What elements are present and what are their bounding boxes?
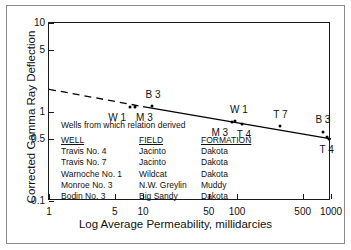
data-point-label: T 4 (320, 145, 334, 155)
x-tick-label-1000: 1000 (320, 207, 342, 217)
data-point (328, 137, 331, 140)
y-tick-0.5 (49, 139, 54, 140)
data-point (151, 104, 154, 107)
plot-area: 1510501005001000 10510.50.1 W 1M 3B 3W 1… (48, 22, 330, 200)
legend-note: Wells from which relation derived (61, 120, 186, 130)
legend-cell-formation: Muddy (201, 180, 251, 191)
y-tick-label-0.5: 0.5 (19, 134, 45, 144)
legend-header-row: WELL FIELD FORMATION (61, 135, 251, 146)
data-point (240, 122, 243, 125)
x-tick-label-5: 5 (112, 207, 118, 217)
legend-header-formation: FORMATION (201, 135, 251, 146)
y-tick-label-5: 5 (19, 45, 45, 55)
legend-row: Bodin No. 3Big SandyDakota (61, 191, 251, 202)
legend-cell-formation: Dakota (201, 191, 251, 202)
x-tick-1000 (331, 194, 332, 199)
legend-cell-field: Jacinto (139, 157, 201, 168)
x-tick-label-50: 50 (203, 207, 214, 217)
legend-body: Travis No. 4JacintoDakotaTravis No. 7Jac… (61, 146, 251, 202)
y-tick-0.1 (49, 201, 54, 202)
data-point (279, 124, 282, 127)
legend-header-field: FIELD (139, 135, 201, 146)
data-point (321, 130, 324, 133)
legend-cell-formation: Dakota (201, 146, 251, 157)
data-point (129, 106, 132, 109)
y-tick-1 (49, 112, 54, 113)
legend-cell-well: Bodin No. 3 (61, 191, 139, 202)
figure-container: Corrected Gamma Ray Deflection Log Avera… (0, 0, 351, 250)
x-tick-label-10: 10 (137, 207, 148, 217)
y-tick-10 (49, 23, 54, 24)
x-tick-500 (303, 194, 304, 199)
legend-cell-well: Warnoche No. 1 (61, 169, 139, 180)
x-axis-title: Log Average Permeability, millidarcies (0, 218, 351, 230)
data-point (134, 106, 137, 109)
wells-legend-table: WELL FIELD FORMATION Travis No. 4Jacinto… (61, 135, 251, 202)
legend-row: Travis No. 4JacintoDakota (61, 146, 251, 157)
legend-header-well: WELL (61, 135, 139, 146)
legend-cell-field: Wildcat (139, 169, 201, 180)
x-tick-label-100: 100 (229, 207, 246, 217)
y-tick-5 (49, 50, 54, 51)
legend-row: Warnoche No. 1WildcatDakota (61, 169, 251, 180)
data-point-label: B 3 (315, 115, 330, 125)
x-tick-label-1: 1 (46, 207, 52, 217)
legend-row: Monroe No. 3N.W. GreylinMuddy (61, 180, 251, 191)
y-tick-label-0.1: 0.1 (19, 196, 45, 206)
data-point (230, 120, 233, 123)
data-point-label: T 7 (273, 110, 287, 120)
legend-cell-field: Jacinto (139, 146, 201, 157)
legend-row: Travis No. 7JacintoDakota (61, 157, 251, 168)
y-tick-label-1: 1 (19, 107, 45, 117)
legend-cell-well: Travis No. 4 (61, 146, 139, 157)
legend-cell-well: Travis No. 7 (61, 157, 139, 168)
trend-line-dashed-segment (49, 89, 143, 106)
legend-cell-field: Big Sandy (139, 191, 201, 202)
y-tick-label-10: 10 (19, 18, 45, 28)
legend-cell-field: N.W. Greylin (139, 180, 201, 191)
x-tick-label-500: 500 (294, 207, 311, 217)
data-point (233, 119, 236, 122)
x-tick-1 (49, 194, 50, 199)
data-point-label: W 1 (230, 105, 248, 115)
data-point-label: B 3 (146, 90, 161, 100)
legend-cell-formation: Dakota (201, 169, 251, 180)
legend-cell-well: Monroe No. 3 (61, 180, 139, 191)
legend-cell-formation: Dakota (201, 157, 251, 168)
